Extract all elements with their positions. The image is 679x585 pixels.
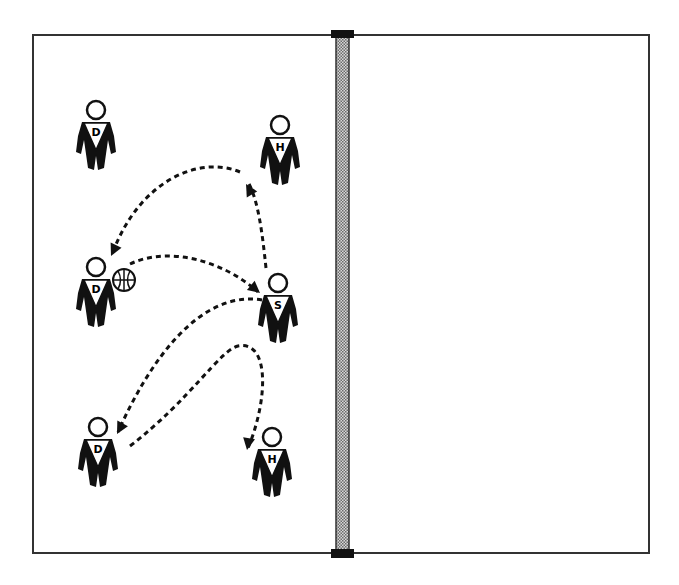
player-label: D — [91, 283, 100, 296]
player-label: D — [93, 443, 102, 456]
player-label: D — [91, 126, 100, 139]
net-post-top — [331, 30, 354, 38]
player-label: S — [274, 299, 282, 312]
player-label: H — [275, 141, 284, 154]
net-post-bottom — [331, 549, 354, 558]
player-label: H — [267, 453, 276, 466]
ball-icon — [113, 269, 135, 291]
drill-diagram: DHDSDH — [0, 0, 679, 585]
